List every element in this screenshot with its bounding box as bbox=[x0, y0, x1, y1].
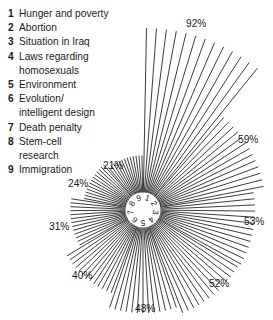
ray bbox=[79, 222, 131, 272]
ray bbox=[160, 210, 255, 211]
center-digit: 5 bbox=[140, 218, 145, 227]
value-label-48: 48% bbox=[135, 303, 155, 314]
ray bbox=[157, 220, 234, 272]
ray bbox=[76, 221, 131, 268]
radial-starburst-figure: 1 Hunger and poverty 2 Abortion 3 Situat… bbox=[0, 0, 273, 320]
value-label-52: 52% bbox=[209, 278, 229, 289]
ray bbox=[154, 223, 214, 294]
starburst-plot: 123456789 bbox=[0, 0, 273, 320]
ray bbox=[150, 43, 215, 195]
ray bbox=[142, 155, 143, 193]
ray bbox=[147, 33, 186, 193]
value-label-53: 53% bbox=[244, 216, 264, 227]
value-label-59: 59% bbox=[238, 134, 258, 145]
ray-group bbox=[67, 28, 264, 313]
ray bbox=[153, 224, 209, 299]
ray bbox=[71, 199, 126, 208]
value-label-92: 92% bbox=[186, 18, 206, 29]
ray bbox=[73, 220, 130, 264]
ray bbox=[70, 210, 126, 211]
value-label-40: 40% bbox=[72, 270, 92, 281]
ray bbox=[157, 220, 231, 277]
value-label-31: 31% bbox=[49, 221, 69, 232]
value-label-24: 24% bbox=[68, 178, 88, 189]
ray bbox=[154, 68, 258, 196]
value-label-21: 21% bbox=[103, 160, 123, 171]
